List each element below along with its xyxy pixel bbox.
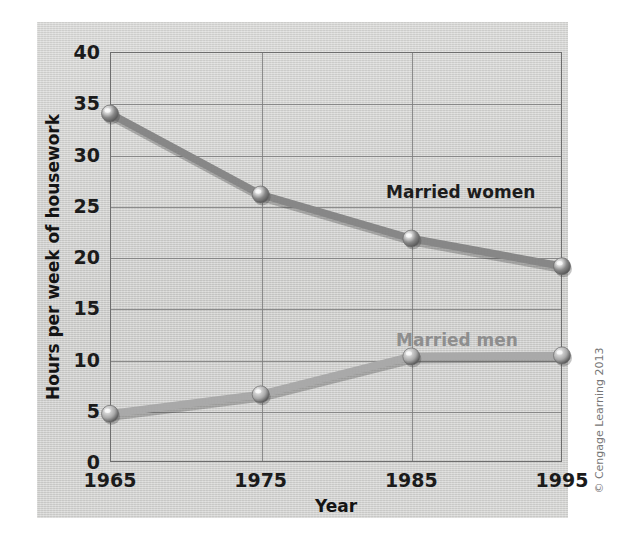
y-axis-tick-label: 25 [54,197,100,216]
y-axis-tick-label: 40 [54,43,100,62]
series-label-married-women: Married women [386,182,535,202]
data-point-marker [554,347,571,364]
copyright-credit-text: © Cengage Learning 2013 [593,347,606,493]
data-point-highlight [557,261,563,265]
data-point-marker [554,258,571,275]
data-point-marker [403,230,420,247]
data-point-highlight [105,409,111,413]
data-point-highlight [255,389,261,393]
series-line [110,355,562,413]
y-axis-tick-label: 15 [54,299,100,318]
data-point-highlight [406,233,412,237]
y-axis-tick-label: 5 [54,402,100,421]
y-axis-tick-label: 30 [54,146,100,165]
data-point-highlight [255,189,261,193]
series-label-married-men: Married men [396,330,518,350]
y-axis-tick-label: 20 [54,248,100,267]
data-point-marker [252,186,269,203]
chart-figure: Hours per week of housework 051015202530… [0,0,627,548]
data-point-marker [403,348,420,365]
x-axis-tick-label: 1975 [216,471,306,490]
x-axis-title: Year [110,496,562,516]
y-axis-tick-label: 10 [54,351,100,370]
data-point-highlight [557,350,563,354]
data-point-marker [102,405,119,422]
data-point-highlight [406,351,412,355]
copyright-credit: © Cengage Learning 2013 [589,330,609,510]
series-plot [110,52,562,462]
data-point-marker [102,105,119,122]
y-axis-tick-label: 35 [54,94,100,113]
x-axis-tick-label: 1965 [65,471,155,490]
data-point-marker [252,386,269,403]
data-point-highlight [105,108,111,112]
x-axis-tick-label: 1985 [366,471,456,490]
